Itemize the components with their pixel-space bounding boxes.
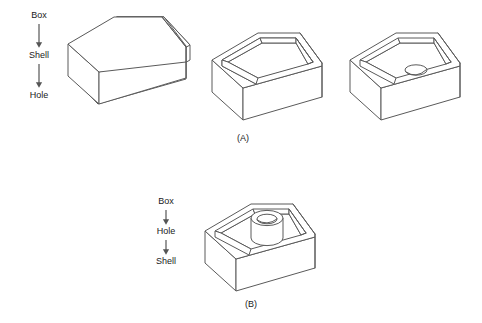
- panel-b-flow-step-3: Shell: [143, 256, 189, 267]
- stage-a1-solid-box: [71, 17, 190, 104]
- panel-b-flow-step-1: Box: [143, 196, 189, 207]
- cylindrical-boss: [251, 210, 283, 245]
- panel-a-caption: (A): [223, 133, 263, 144]
- panel-b-caption: (B): [231, 299, 271, 310]
- stage-a1: [68, 17, 186, 104]
- stage-a3: [350, 33, 460, 120]
- figure-canvas: Box Shell Hole Box Hole Shell (A) (B): [0, 0, 482, 323]
- panel-b-flow-step-2: Hole: [143, 226, 189, 237]
- panel-a-flow-step-2: Shell: [16, 50, 62, 61]
- stage-a2: [212, 33, 322, 120]
- panel-a-flow-step-3: Hole: [16, 90, 62, 101]
- floor-hole: [405, 65, 427, 75]
- stage-a1-outline: [71, 17, 196, 104]
- panel-a-flow-step-1: Box: [16, 10, 62, 21]
- stage-b1: [205, 204, 315, 291]
